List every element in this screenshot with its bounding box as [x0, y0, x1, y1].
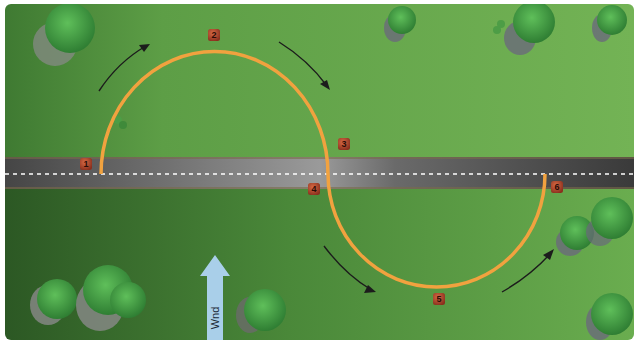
- position-marker-4: 4: [308, 183, 320, 195]
- position-marker-6: 6: [551, 181, 563, 193]
- svg-text:1: 1: [83, 159, 88, 169]
- svg-text:6: 6: [554, 182, 559, 192]
- position-marker-2: 2: [208, 29, 220, 41]
- svg-text:5: 5: [436, 294, 441, 304]
- wind-label: Wnd: [209, 307, 221, 330]
- svg-text:2: 2: [211, 30, 216, 40]
- position-marker-1: 1: [80, 158, 92, 170]
- position-marker-3: 3: [338, 138, 350, 150]
- flight-path-diagram: 1 2 3 4 5 6 Wnd: [0, 0, 639, 343]
- position-marker-5: 5: [433, 293, 445, 305]
- svg-text:4: 4: [311, 184, 316, 194]
- svg-text:3: 3: [341, 139, 346, 149]
